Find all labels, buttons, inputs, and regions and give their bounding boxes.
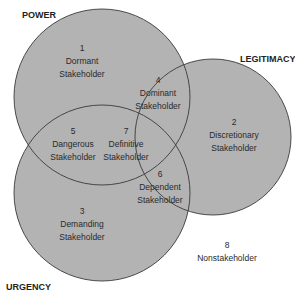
region-label-line2: Stakeholder [135, 101, 181, 111]
region-label-line1: Dependent [139, 182, 181, 192]
region-label-line2: Stakeholder [59, 69, 105, 79]
urgency-circle [14, 105, 190, 281]
set-label-legitimacy: LEGITIMACY [240, 54, 295, 64]
region-label-line1: Dormant [66, 56, 99, 66]
set-label-urgency: URGENCY [6, 282, 51, 292]
region-label-line1: Dangerous [52, 139, 94, 149]
region-label-line2: Stakeholder [211, 143, 257, 153]
region-label-line2: Stakeholder [59, 232, 105, 242]
region-label-line2: Stakeholder [137, 195, 183, 205]
region-number: 5 [71, 126, 76, 136]
region-label-line1: Discretionary [209, 130, 259, 140]
region-nonstakeholder: 8 Nonstakeholder [197, 240, 257, 263]
set-label-power: POWER [22, 10, 57, 20]
region-number: 8 [225, 240, 230, 250]
region-number: 2 [232, 117, 237, 127]
region-label-line1: Demanding [60, 219, 104, 229]
region-number: 3 [80, 206, 85, 216]
region-label-line1: Definitive [109, 139, 144, 149]
region-label-line2: Stakeholder [103, 152, 149, 162]
region-number: 1 [80, 43, 85, 53]
region-label-line2: Stakeholder [50, 152, 96, 162]
stakeholder-venn-diagram: POWER LEGITIMACY URGENCY 1 Dormant Stake… [0, 0, 295, 304]
region-label-line1: Nonstakeholder [197, 253, 257, 263]
region-number: 6 [158, 169, 163, 179]
region-number: 4 [156, 75, 161, 85]
region-number: 7 [124, 126, 129, 136]
region-label-line1: Dominant [140, 88, 177, 98]
